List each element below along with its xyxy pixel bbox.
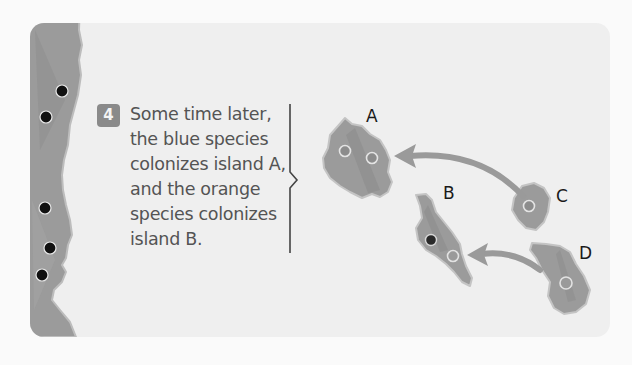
island-a bbox=[323, 118, 392, 198]
caption-line: and the orange bbox=[130, 177, 290, 202]
caption-line: Some time later, bbox=[130, 102, 290, 127]
caption-line: colonizes island A, bbox=[130, 152, 290, 177]
island-diagram bbox=[0, 0, 632, 365]
species-dot bbox=[44, 242, 56, 254]
island-label-b: B bbox=[443, 185, 455, 202]
caption-line: species colonizes bbox=[130, 202, 290, 227]
island-label-d: D bbox=[579, 245, 592, 262]
species-dot bbox=[426, 235, 437, 246]
caption-line: island B. bbox=[130, 227, 290, 252]
species-dot bbox=[39, 202, 51, 214]
species-dot bbox=[56, 85, 68, 97]
species-dot bbox=[367, 153, 378, 164]
species-dot bbox=[524, 201, 535, 212]
caption-line: the blue species bbox=[130, 127, 290, 152]
island-b bbox=[416, 194, 472, 286]
figure-stage: 4 Some time later, the blue species colo… bbox=[0, 0, 632, 365]
caption-bracket bbox=[290, 104, 297, 253]
step-caption: Some time later, the blue species coloni… bbox=[130, 102, 290, 252]
species-dot bbox=[40, 111, 52, 123]
species-dot bbox=[340, 146, 351, 157]
species-dot bbox=[448, 251, 459, 262]
arrow-d-to-b bbox=[467, 243, 540, 270]
arrow-c-to-a bbox=[394, 144, 523, 196]
species-dot bbox=[36, 269, 48, 281]
island-label-a: A bbox=[366, 108, 378, 125]
species-dot bbox=[560, 277, 572, 289]
step-number-badge: 4 bbox=[97, 104, 120, 127]
mainland bbox=[0, 0, 82, 337]
island-label-c: C bbox=[556, 188, 568, 205]
